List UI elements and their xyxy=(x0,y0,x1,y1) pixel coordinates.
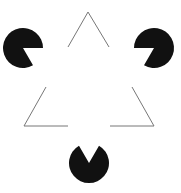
kanizsa-canvas xyxy=(0,0,181,193)
kanizsa-figure xyxy=(0,0,181,193)
